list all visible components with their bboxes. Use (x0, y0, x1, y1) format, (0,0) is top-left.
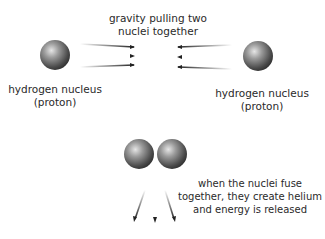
energy-arrowhead-2 (153, 217, 157, 223)
fusion-label-line-1: when the nuclei fuse (175, 177, 325, 190)
right-nucleus-label: hydrogen nucleus (proton) (203, 87, 321, 113)
arrows-right (80, 44, 135, 67)
fused-proton-right (157, 139, 187, 169)
gravity-label: gravity pulling two nuclei together (103, 12, 213, 38)
arrowhead-left-1 (177, 45, 182, 49)
right-proton (243, 41, 273, 71)
fusion-label-line-2: together, they create helium (175, 190, 325, 203)
left-nucleus-subtitle: (proton) (0, 96, 110, 109)
energy-arrows (133, 190, 176, 223)
arrow-right-1 (80, 44, 134, 47)
arrowhead-left-3 (177, 65, 182, 69)
energy-arrow-1 (135, 190, 145, 219)
energy-arrow-3 (165, 190, 174, 219)
right-nucleus-subtitle: (proton) (203, 100, 321, 113)
arrowhead-right-2 (130, 54, 135, 58)
fused-proton-left (124, 139, 154, 169)
energy-arrowhead-1 (133, 216, 137, 222)
fusion-label-line-3: and energy is released (175, 203, 325, 216)
arrows-left (177, 45, 232, 69)
left-nucleus-label: hydrogen nucleus (proton) (0, 83, 110, 109)
arrowhead-right-3 (130, 63, 135, 67)
arrow-left-3 (178, 67, 232, 69)
arrowhead-right-1 (130, 45, 135, 49)
left-nucleus-name: hydrogen nucleus (0, 83, 110, 96)
arrow-right-3 (80, 65, 134, 67)
arrowhead-left-2 (177, 55, 182, 59)
fusion-label: when the nuclei fuse together, they crea… (175, 177, 325, 216)
arrow-left-1 (178, 45, 232, 47)
energy-arrowhead-3 (172, 216, 176, 222)
left-proton (40, 40, 70, 70)
right-nucleus-name: hydrogen nucleus (203, 87, 321, 100)
